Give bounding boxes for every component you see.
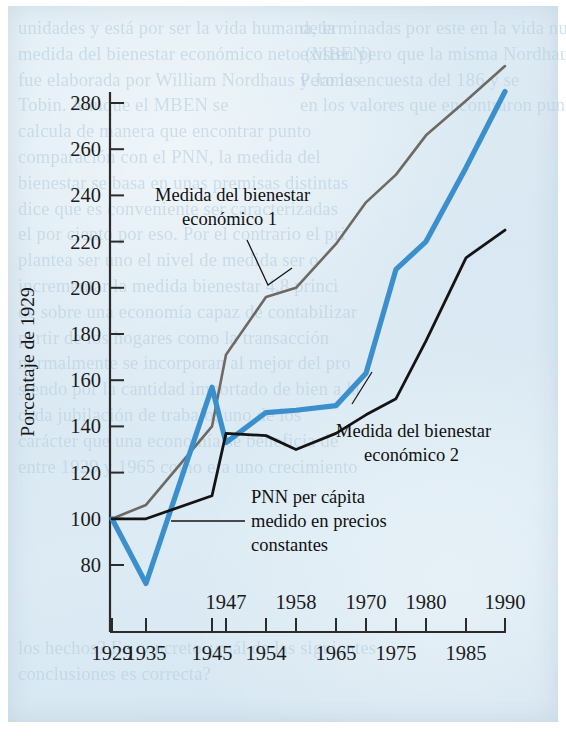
y-tick-label: 280: [70, 92, 101, 114]
line-chart: 28026024022020018016014012010080 1947195…: [0, 0, 566, 740]
x-tick-label-lower: 1945: [192, 642, 233, 664]
x-tick-label-lower: 1935: [126, 642, 167, 664]
x-tick-label-lower: 1965: [316, 642, 357, 664]
chart-page: unidades y está por ser la vida humana, …: [0, 0, 566, 740]
annotation-mbe2-line2: económico 2: [364, 445, 459, 465]
x-axis-labels-lower: 1929193519451954196519751985: [92, 642, 487, 664]
x-axis-ticks: [112, 618, 505, 632]
y-tick-label: 200: [70, 277, 101, 299]
y-tick-label: 220: [70, 231, 101, 253]
x-tick-label-upper: 1947: [206, 591, 247, 613]
y-tick-label: 140: [70, 415, 101, 437]
y-axis-ticks: 28026024022020018016014012010080: [70, 92, 124, 576]
annotation-pnn-line1: PNN per cápita: [251, 487, 365, 507]
y-tick-label: 100: [70, 508, 101, 530]
y-tick-label: 260: [70, 138, 101, 160]
y-tick-label: 240: [70, 184, 101, 206]
x-tick-label-lower: 1985: [446, 642, 487, 664]
x-tick-label-upper: 1990: [485, 591, 526, 613]
x-tick-label-upper: 1970: [346, 591, 387, 613]
y-tick-label: 120: [70, 462, 101, 484]
x-axis-labels-upper: 19471958197019801990: [206, 591, 526, 613]
y-tick-label: 180: [70, 323, 101, 345]
y-tick-label: 80: [81, 554, 102, 576]
annotation-pnn-line2: medido en precios: [251, 511, 387, 531]
x-tick-label-lower: 1954: [246, 642, 287, 664]
x-tick-label-upper: 1980: [406, 591, 447, 613]
annotation-mbe1-line2: económico 1: [182, 209, 277, 229]
y-tick-label: 160: [70, 369, 101, 391]
annotation-mbe2-line1: Medida del bienestar: [336, 421, 491, 441]
leader-line-mbe1: [247, 240, 292, 285]
x-tick-label-lower: 1975: [376, 642, 417, 664]
annotation-pnn-line3: constantes: [251, 535, 328, 555]
y-axis-title: Porcentaje de 1929: [17, 287, 38, 436]
x-tick-label-upper: 1958: [276, 591, 317, 613]
annotation-mbe1-line1: Medida del bienestar: [155, 185, 310, 205]
